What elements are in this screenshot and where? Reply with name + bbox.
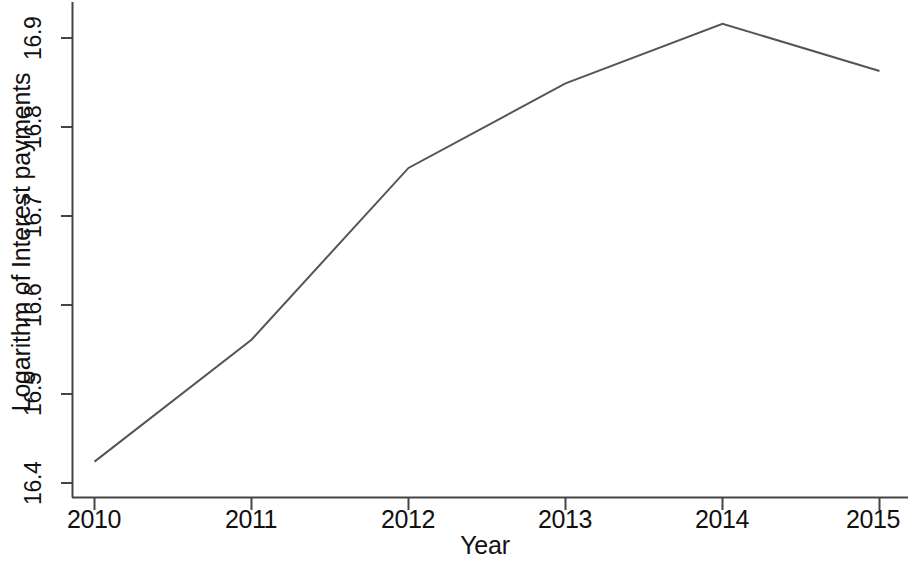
line-chart: Logarithm of Interest payments 16.4 16.5… [0, 0, 910, 566]
x-tick-label-2015: 2015 [813, 505, 910, 534]
y-axis-ticks [61, 38, 72, 483]
x-tick-label-2014: 2014 [662, 505, 782, 534]
x-tick-label-2013: 2013 [505, 505, 625, 534]
data-series-line [95, 24, 880, 462]
plot-area [0, 0, 910, 566]
x-tick-label-2010: 2010 [34, 505, 154, 534]
x-axis-title: Year [395, 531, 575, 560]
x-tick-label-2012: 2012 [348, 505, 468, 534]
x-tick-label-2011: 2011 [191, 505, 311, 534]
